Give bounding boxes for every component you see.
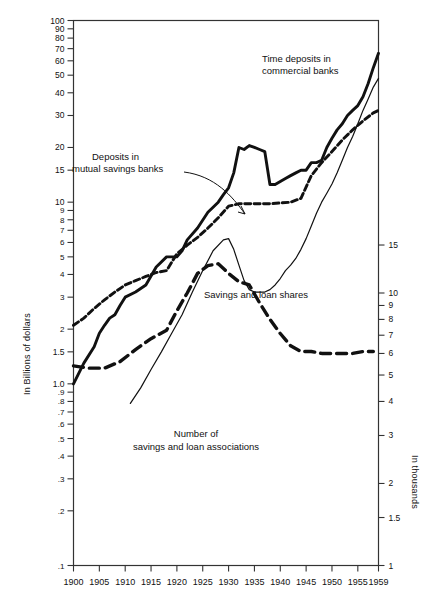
- left-tick-label: 50: [55, 70, 65, 80]
- left-tick-label: 30: [55, 110, 65, 120]
- right-tick-label: 5: [389, 370, 394, 380]
- number-assoc-label-line2: savings and loan associations: [133, 441, 259, 452]
- bottom-tick-label: 1905: [89, 577, 109, 587]
- left-tick-label: 60: [55, 56, 65, 66]
- bottom-tick-label: 1945: [296, 577, 316, 587]
- chart-svg: 10090807060504030201510987654321.51.0.9.…: [0, 0, 427, 612]
- chart-figure: 10090807060504030201510987654321.51.0.9.…: [0, 0, 427, 612]
- right-tick-label: 4: [389, 396, 394, 406]
- left-tick-label: 8: [60, 216, 65, 225]
- left-tick-label: .7: [58, 408, 65, 417]
- bottom-tick-label: 1920: [167, 577, 187, 587]
- left-tick-label: 70: [55, 44, 65, 54]
- left-tick-label: 80: [55, 33, 65, 43]
- right-tick-label: 6: [389, 348, 394, 358]
- left-tick-label: 6: [60, 238, 65, 247]
- bottom-tick-label: 1925: [193, 577, 213, 587]
- bottom-tick-label: 1900: [63, 577, 83, 587]
- right-tick-label: 3: [389, 430, 394, 440]
- left-tick-label: 9: [60, 206, 65, 215]
- time-deposits-label-line2: commercial banks: [262, 65, 339, 76]
- bottom-tick-label: 1935: [244, 577, 264, 587]
- right-tick-label: 10: [389, 288, 399, 298]
- left-tick-label: 15: [55, 165, 65, 175]
- bottom-tick-label: 1910: [115, 577, 135, 587]
- mutual-savings-label-line1: Deposits in: [92, 151, 139, 162]
- left-tick-label: 4: [60, 270, 65, 279]
- left-tick-label: .2: [58, 507, 65, 516]
- right-axis-title: In thousands: [410, 455, 420, 509]
- left-tick-label: 1.5: [53, 347, 65, 357]
- annotation-savings-loan-shares: Savings and loan shares: [204, 289, 308, 300]
- time-deposits-label-line1: Time deposits in: [262, 53, 331, 64]
- left-tick-label: .3: [58, 475, 65, 484]
- left-tick-label: .8: [58, 397, 65, 406]
- right-tick-label: 9: [389, 300, 394, 310]
- number-assoc-label-line1: Number of: [174, 428, 219, 439]
- right-tick-label: 15: [389, 240, 399, 250]
- right-tick-label: 7: [389, 330, 394, 340]
- bottom-tick-label: 1959: [368, 577, 388, 587]
- bottom-tick-label: 1950: [322, 577, 342, 587]
- left-tick-label: .9: [58, 388, 65, 397]
- mutual-savings-label-line2: mutual savings banks: [72, 163, 164, 174]
- bottom-tick-label: 1955: [348, 577, 368, 587]
- right-tick-label: 8: [389, 314, 394, 324]
- left-tick-label: 5: [60, 253, 65, 262]
- right-tick-label: 1.5: [389, 513, 401, 523]
- savings-loan-shares-label: Savings and loan shares: [204, 289, 308, 300]
- left-tick-label: .6: [58, 420, 65, 429]
- left-tick-label: .1: [58, 562, 65, 571]
- left-tick-label: 3: [60, 293, 65, 302]
- left-tick-label: .4: [58, 452, 65, 461]
- left-axis-title: In Billions of dollars: [22, 313, 32, 395]
- bottom-tick-label: 1930: [219, 577, 239, 587]
- left-tick-label: 7: [60, 226, 65, 235]
- bottom-tick-label: 1940: [270, 577, 290, 587]
- right-tick-label: 1: [389, 561, 394, 571]
- left-tick-label: 2: [60, 325, 65, 334]
- left-tick-label: 40: [55, 88, 65, 98]
- right-tick-label: 2: [389, 478, 394, 488]
- left-tick-label: 20: [55, 142, 65, 152]
- annotation-time-deposits: Time deposits in commercial banks: [262, 53, 339, 76]
- bottom-tick-label: 1915: [141, 577, 161, 587]
- left-tick-label: .5: [58, 435, 65, 444]
